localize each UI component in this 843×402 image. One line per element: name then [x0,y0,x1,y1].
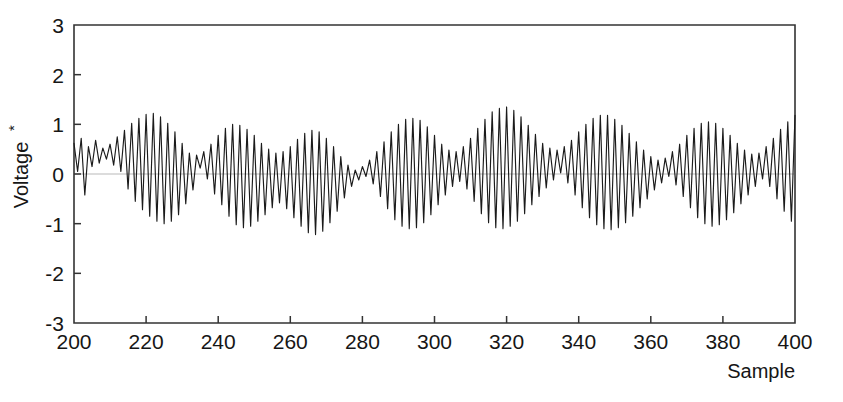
y-tick-label--1: -1 [45,213,64,236]
y-tick-label-2: 2 [52,64,64,87]
x-tick-label-300: 300 [417,330,452,353]
x-tick-label-240: 240 [201,330,236,353]
y-tick-label--3: -3 [45,312,64,335]
y-axis-title: Voltage [10,142,32,209]
x-tick-label-340: 340 [561,330,596,353]
data-series-group [74,107,795,235]
y-tick-label-0: 0 [52,163,64,186]
x-axis-ticks [146,316,723,323]
y-tick-label-3: 3 [52,14,64,37]
y-axis-title-group: Voltage * [5,125,32,208]
x-tick-label-380: 380 [705,330,740,353]
x-tick-label-280: 280 [345,330,380,353]
x-axis-title: Sample [727,360,795,382]
x-axis-tick-labels: 200220240260280300320340360380400 [56,330,812,353]
x-tick-label-360: 360 [633,330,668,353]
x-tick-label-400: 400 [777,330,812,353]
y-axis-ticks [74,75,81,274]
y-axis-tick-labels: -3-2-10123 [45,14,64,335]
voltage-vs-sample-chart: 200220240260280300320340360380400 -3-2-1… [0,0,843,402]
figure-container: 200220240260280300320340360380400 -3-2-1… [0,0,843,402]
series-line-voltage [74,107,795,235]
x-tick-label-220: 220 [129,330,164,353]
y-axis-title-superscript: * [5,125,22,131]
y-tick-label-1: 1 [52,113,64,136]
y-tick-label--2: -2 [45,262,64,285]
x-tick-label-320: 320 [489,330,524,353]
x-tick-label-260: 260 [273,330,308,353]
